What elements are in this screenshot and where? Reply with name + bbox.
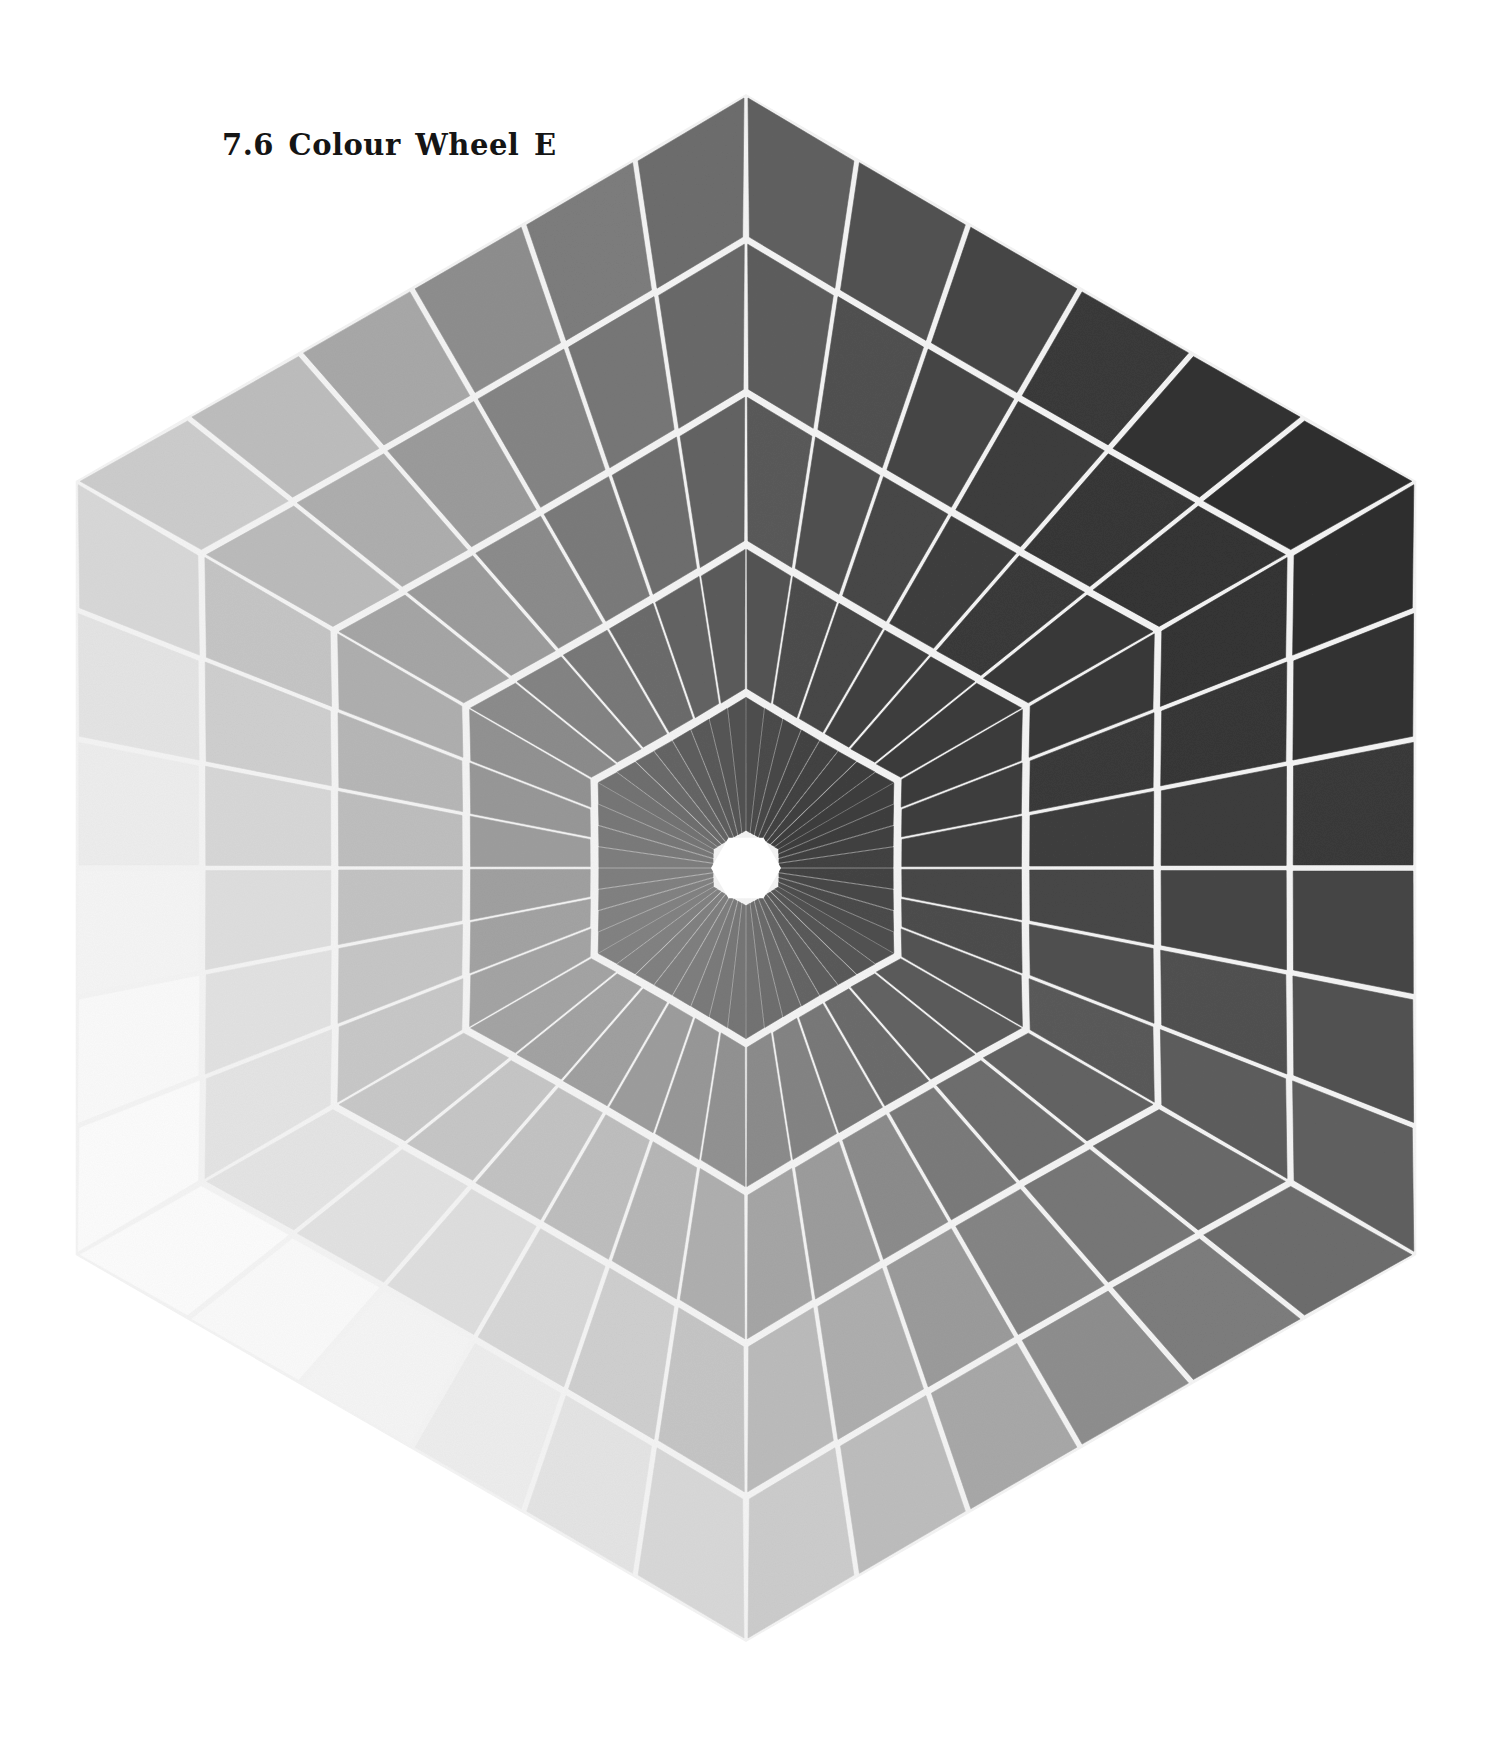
hexagonal-colour-wheel <box>0 0 1498 1754</box>
colour-wheel-diagram <box>0 0 1498 1754</box>
page: 7.6 Colour Wheel E <box>0 0 1498 1754</box>
